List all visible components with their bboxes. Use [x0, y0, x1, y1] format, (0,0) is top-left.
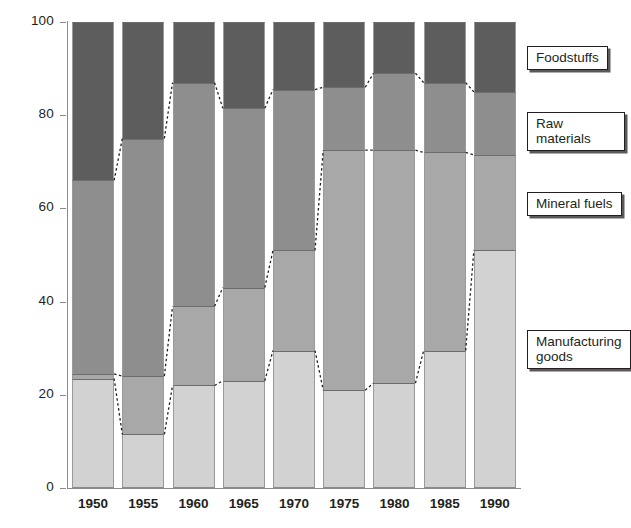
bar-segment-manufacturing-goods — [474, 250, 516, 488]
bar-segment-mineral-fuels — [173, 306, 215, 385]
connector-line — [466, 83, 474, 92]
y-tick-mark — [60, 22, 66, 23]
bar-1955 — [122, 22, 164, 488]
y-tick-label: 100 — [14, 13, 54, 28]
connector-line — [365, 73, 373, 87]
legend-callout-foodstuffs: Foodstuffs — [527, 46, 608, 70]
connector-line — [415, 351, 423, 384]
connector-line — [164, 385, 172, 434]
connector-line — [215, 83, 223, 109]
bar-1980 — [373, 22, 415, 488]
x-tick-label-1990: 1990 — [465, 496, 525, 511]
bar-segment-raw-materials — [273, 90, 315, 251]
connector-line — [164, 306, 172, 376]
bar-segment-raw-materials — [173, 83, 215, 307]
bar-segment-manufacturing-goods — [273, 351, 315, 488]
y-tick-label: 40 — [14, 293, 54, 308]
bar-segment-manufacturing-goods — [323, 390, 365, 488]
connector-line — [315, 87, 323, 89]
connector-line — [415, 150, 423, 152]
bar-segment-foodstuffs — [122, 22, 164, 139]
legend-callout-raw-materials: Raw materials — [527, 112, 625, 151]
y-tick-mark — [60, 115, 66, 116]
y-tick-mark — [60, 488, 66, 489]
connector-line — [466, 152, 474, 154]
x-axis-line — [67, 488, 521, 489]
connector-line — [365, 383, 373, 390]
bar-segment-foodstuffs — [424, 22, 466, 83]
bar-segment-manufacturing-goods — [373, 383, 415, 488]
connector-line — [415, 73, 423, 82]
connector-line — [215, 381, 223, 386]
bar-1965 — [223, 22, 265, 488]
bar-segment-manufacturing-goods — [424, 351, 466, 488]
connector-line — [265, 351, 273, 381]
bar-segment-manufacturing-goods — [122, 434, 164, 488]
bar-segment-manufacturing-goods — [72, 379, 114, 489]
bar-segment-raw-materials — [424, 83, 466, 153]
bar-segment-foodstuffs — [173, 22, 215, 83]
bar-segment-mineral-fuels — [323, 150, 365, 390]
bar-segment-mineral-fuels — [72, 374, 114, 379]
connector-line — [114, 374, 122, 376]
bar-1985 — [424, 22, 466, 488]
connector-line — [114, 139, 122, 181]
connector-line — [265, 90, 273, 109]
legend-callout-mineral-fuels: Mineral fuels — [527, 192, 622, 216]
bar-segment-foodstuffs — [474, 22, 516, 92]
bar-segment-foodstuffs — [373, 22, 415, 73]
plot-area: Percent of imports (by value) — [68, 22, 520, 488]
bar-segment-foodstuffs — [273, 22, 315, 90]
bar-segment-raw-materials — [373, 73, 415, 150]
connector-line — [315, 351, 323, 391]
y-tick-label: 80 — [14, 106, 54, 121]
y-tick-mark — [60, 302, 66, 303]
bar-segment-raw-materials — [474, 92, 516, 155]
bar-segment-raw-materials — [223, 108, 265, 287]
bar-segment-foodstuffs — [223, 22, 265, 108]
bar-segment-mineral-fuels — [373, 150, 415, 383]
y-tick-label: 20 — [14, 386, 54, 401]
connector-line — [215, 288, 223, 307]
bar-segment-mineral-fuels — [223, 288, 265, 381]
bar-1960 — [173, 22, 215, 488]
y-tick-mark — [60, 395, 66, 396]
bar-segment-mineral-fuels — [122, 376, 164, 434]
bar-1990 — [474, 22, 516, 488]
bar-segment-mineral-fuels — [424, 152, 466, 350]
bar-segment-raw-materials — [122, 139, 164, 377]
connector-line — [315, 150, 323, 250]
connector-line — [466, 250, 474, 350]
legend-callout-manufacturing-goods: Manufacturing goods — [527, 330, 631, 369]
y-tick-mark — [60, 208, 66, 209]
bar-segment-raw-materials — [323, 87, 365, 150]
bar-segment-mineral-fuels — [474, 155, 516, 251]
connector-line — [114, 378, 122, 434]
connector-line — [164, 83, 172, 139]
bar-1970 — [273, 22, 315, 488]
bar-segment-raw-materials — [72, 180, 114, 373]
y-tick-label: 60 — [14, 199, 54, 214]
bar-segment-foodstuffs — [323, 22, 365, 87]
bar-1950 — [72, 22, 114, 488]
connector-line — [265, 250, 273, 287]
bar-segment-manufacturing-goods — [223, 381, 265, 488]
bar-segment-foodstuffs — [72, 22, 114, 180]
bar-1975 — [323, 22, 365, 488]
bar-segment-mineral-fuels — [273, 250, 315, 350]
y-tick-label: 0 — [14, 479, 54, 494]
bar-segment-manufacturing-goods — [173, 385, 215, 488]
